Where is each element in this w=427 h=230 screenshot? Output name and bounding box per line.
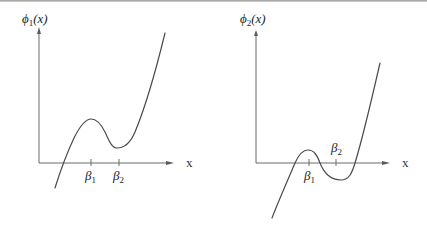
phi1-beta1-label: β1 [84,168,96,185]
phi1-y-label: ϕ1(x) [22,11,48,28]
phi2-y-label: ϕ2(x) [240,11,266,28]
phi1-y-arrow-icon [37,27,41,34]
panel-phi2: ϕ2(x) x β1 β2 [240,11,409,218]
phi2-y-arrow-icon [254,30,258,36]
phi1-curve [55,33,165,188]
phi2-x-label: x [402,155,409,170]
phi2-beta2-label: β2 [330,140,342,157]
panel-phi1: ϕ1(x) x β1 β2 [22,11,193,188]
phi2-beta1-label: β1 [303,168,315,185]
phi1-x-label: x [186,155,193,170]
figure-canvas: ϕ1(x) x β1 β2 ϕ2(x) x β1 β2 [0,0,427,230]
phi1-beta2-label: β2 [112,168,124,185]
phi2-x-arrow-icon [382,161,390,165]
phi2-curve [272,63,380,218]
phi1-x-arrow-icon [166,161,174,165]
